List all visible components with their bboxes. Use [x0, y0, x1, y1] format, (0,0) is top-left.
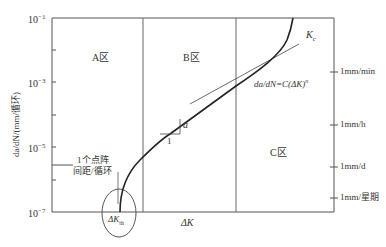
ytick-base: 10: [28, 78, 38, 89]
right-axis-label-hour: 1mm/h: [340, 120, 366, 129]
fatigue-crack-growth-diagram: [0, 0, 386, 247]
ytick-1e-7: 10−7: [28, 208, 45, 219]
threshold-sub: th: [119, 220, 124, 226]
ytick-exp: −1: [38, 13, 45, 21]
threshold-label: ΔKth: [108, 215, 124, 226]
ytick-exp: −5: [38, 142, 45, 150]
slope-triangle: [160, 119, 180, 134]
kc-main: K: [306, 29, 313, 40]
paris-tangent-line: [190, 44, 299, 104]
region-b-label: B区: [183, 53, 200, 63]
lattice-label-line1: 1个点阵: [77, 156, 109, 165]
paris-formula: da/dN=C(ΔK): [254, 79, 305, 89]
ytick-1e-1: 10−1: [28, 14, 45, 25]
slope-rise-label: a: [183, 120, 188, 130]
ytick-exp: −3: [38, 77, 45, 85]
lattice-label-line2: 间距/循环: [73, 167, 112, 176]
left-axis-ticks: [52, 50, 56, 180]
threshold-ellipse: [102, 189, 136, 237]
region-c-label: C区: [270, 148, 287, 158]
y-axis-label: da/dN/(mm/循环): [12, 75, 21, 175]
region-a-label: A区: [92, 53, 109, 63]
plot-frame: [52, 18, 334, 212]
threshold-main: ΔK: [108, 214, 119, 224]
paris-law-label: da/dN=C(ΔK)n: [254, 78, 308, 89]
ytick-exp: −7: [38, 207, 45, 215]
right-axis-label-min: 1mm/min: [340, 67, 375, 76]
slope-run-label: 1: [167, 137, 172, 146]
kc-sub: c: [313, 35, 316, 43]
ytick-1e-3: 10−3: [28, 78, 45, 89]
right-axis-label-week: 1mm/星期: [340, 193, 379, 202]
ytick-base: 10: [28, 14, 38, 25]
ytick-1e-5: 10−5: [28, 143, 45, 154]
paris-exponent: n: [305, 78, 308, 84]
crack-growth-curve: [120, 18, 293, 212]
ytick-base: 10: [28, 143, 38, 154]
kc-label: Kc: [306, 30, 316, 43]
ytick-base: 10: [28, 208, 38, 219]
right-axis-label-day: 1mm/d: [340, 162, 366, 171]
x-axis-label: ΔK: [181, 218, 194, 228]
